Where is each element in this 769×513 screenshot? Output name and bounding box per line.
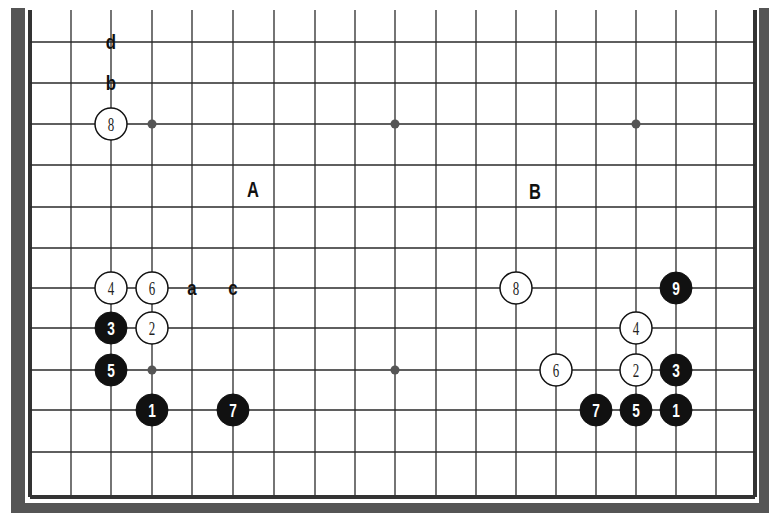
black-stone-7: 7	[580, 394, 612, 426]
star-point	[391, 366, 400, 375]
white-stone-4: 4	[95, 272, 127, 304]
move-number: 6	[149, 279, 156, 299]
move-number: 2	[633, 361, 639, 381]
black-stone-5: 5	[620, 394, 652, 426]
move-number: 9	[672, 278, 680, 300]
go-board-diagram: dbacAB 84632517894623751	[0, 0, 769, 513]
move-number: 1	[148, 400, 156, 422]
black-stone-1: 1	[136, 394, 168, 426]
area-label-A: A	[247, 177, 259, 202]
area-label-B: B	[529, 179, 541, 204]
move-number: 7	[229, 400, 237, 422]
move-number: 4	[633, 319, 640, 339]
move-number: 5	[107, 360, 115, 382]
move-number: 8	[513, 279, 520, 299]
move-number: 7	[592, 400, 600, 422]
white-stone-6: 6	[136, 272, 168, 304]
star-point	[632, 120, 641, 129]
white-stone-8: 8	[95, 108, 127, 140]
star-point	[148, 120, 157, 129]
move-number: 6	[553, 361, 560, 381]
white-stone-2: 2	[620, 354, 652, 386]
black-stone-5: 5	[95, 354, 127, 386]
white-stone-8: 8	[500, 272, 532, 304]
bottom-border-band	[11, 503, 769, 513]
white-stone-6: 6	[540, 354, 572, 386]
move-number: 2	[149, 319, 155, 339]
black-stone-3: 3	[95, 312, 127, 344]
move-number: 3	[107, 318, 115, 340]
white-stone-2: 2	[136, 312, 168, 344]
star-points	[148, 120, 641, 375]
move-number: 3	[672, 360, 680, 382]
point-label-a: a	[187, 276, 197, 299]
move-number: 4	[108, 279, 115, 299]
white-stone-4: 4	[620, 312, 652, 344]
star-point	[391, 120, 400, 129]
left-border-band	[11, 8, 25, 513]
black-stone-9: 9	[660, 272, 692, 304]
black-stone-7: 7	[217, 394, 249, 426]
point-label-d: d	[106, 30, 116, 53]
stones: 84632517894623751	[95, 108, 692, 426]
board-grid	[30, 10, 755, 497]
move-number: 1	[672, 400, 680, 422]
black-stone-1: 1	[660, 394, 692, 426]
go-board: dbacAB 84632517894623751	[0, 0, 769, 513]
point-label-b: b	[106, 71, 116, 94]
move-number: 8	[108, 115, 115, 135]
right-border-band	[759, 8, 769, 513]
point-label-c: c	[228, 276, 238, 299]
move-number: 5	[632, 400, 640, 422]
star-point	[148, 366, 157, 375]
black-stone-3: 3	[660, 354, 692, 386]
